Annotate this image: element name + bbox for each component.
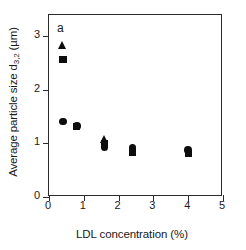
panel-label: a <box>57 21 64 35</box>
y-tick-label: 1 <box>22 135 40 147</box>
y-axis-label-subscript: 3,2 <box>12 53 21 64</box>
x-tick-label: 3 <box>140 199 164 211</box>
y-tick <box>43 143 49 144</box>
x-tick <box>223 195 224 201</box>
x-tick <box>119 195 120 201</box>
data-point-circle <box>59 118 67 126</box>
data-point-triangle <box>58 41 66 49</box>
x-tick <box>84 195 85 201</box>
x-tick-label: 2 <box>106 199 130 211</box>
y-tick <box>43 197 49 198</box>
x-tick-label: 4 <box>175 199 199 211</box>
y-axis-label-unit: (µm) <box>7 27 19 53</box>
x-tick-label: 5 <box>210 199 234 211</box>
x-tick <box>188 195 189 201</box>
x-axis-label-text: LDL concentration (%) <box>76 228 188 240</box>
y-tick <box>43 36 49 37</box>
y-tick-label: 2 <box>22 82 40 94</box>
y-axis-label-main: Average particle size d <box>7 64 19 177</box>
data-point-square <box>185 150 192 157</box>
y-tick-label: 3 <box>22 28 40 40</box>
x-axis-label: LDL concentration (%) <box>0 228 246 240</box>
y-tick <box>43 90 49 91</box>
y-axis-label: Average particle size d3,2 (µm) <box>7 7 19 197</box>
data-point-square <box>73 123 80 130</box>
data-point-square <box>129 148 136 155</box>
plot-area: a <box>48 14 222 196</box>
figure-panel-a: Average particle size d3,2 (µm) LDL conc… <box>0 0 246 250</box>
x-tick-label: 1 <box>71 199 95 211</box>
x-tick-label: 0 <box>36 199 60 211</box>
data-point-square <box>59 56 66 63</box>
x-tick <box>153 195 154 201</box>
x-tick <box>49 195 50 201</box>
data-point-triangle <box>100 135 108 143</box>
